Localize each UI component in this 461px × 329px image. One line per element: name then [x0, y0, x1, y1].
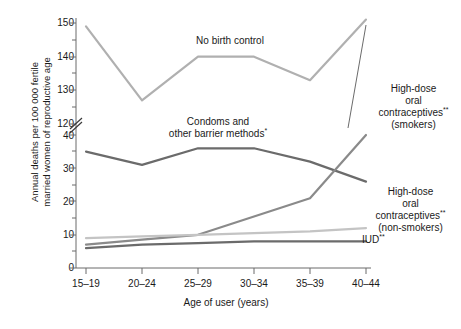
annotation-non-smokers-line1: High-dose	[388, 186, 434, 197]
annotation-smokers-line4: (smokers)	[391, 119, 435, 130]
series-line-1	[86, 148, 366, 181]
annotation-iud-marker: **	[379, 233, 384, 240]
annotation-smokers: High-dose oral contraceptives** (smokers…	[366, 83, 461, 131]
annotation-non-smokers-line4: (non-smokers)	[378, 222, 442, 233]
annotation-non-smokers-line2: oral	[402, 198, 419, 209]
annotation-smokers-line3: contraceptives	[379, 107, 443, 118]
annotation-leader-lines	[348, 25, 366, 128]
annotation-condoms-line1: Condoms and	[187, 116, 249, 127]
annotation-non-smokers-line3: contraceptives	[376, 210, 440, 221]
series-line-3	[86, 228, 366, 238]
annotation-non-smokers-marker: **	[440, 209, 445, 216]
series-line-2	[86, 135, 366, 245]
chart-figure: Annual deaths per 100 000 fertile marrie…	[0, 0, 461, 329]
annotation-non-smokers: High-dose oral contraceptives** (non-smo…	[360, 186, 461, 234]
annotation-smokers-line2: oral	[405, 95, 422, 106]
annotation-condoms: Condoms and other barrier methods*	[148, 116, 288, 140]
chart-plot-area	[0, 0, 461, 329]
annotation-condoms-marker: *	[264, 127, 267, 134]
x-axis-ticks	[86, 268, 366, 274]
series-line-4	[86, 241, 366, 248]
series-line-0	[86, 20, 366, 101]
annotation-no-birth-control: No birth control	[170, 35, 290, 47]
annotation-smokers-line1: High-dose	[391, 83, 437, 94]
annotation-smokers-marker: **	[443, 106, 448, 113]
annotation-condoms-line2: other barrier methods	[169, 128, 265, 139]
annotation-iud-label: IUD	[362, 234, 379, 245]
annotation-iud: IUD**	[362, 234, 422, 246]
y-axis-ticks	[70, 23, 76, 268]
